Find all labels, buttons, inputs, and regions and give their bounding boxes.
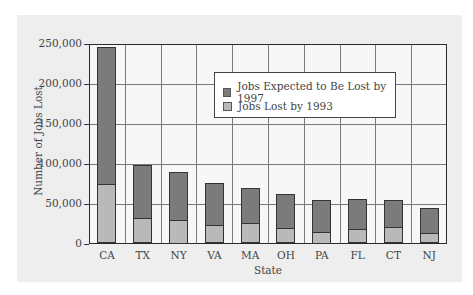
bar-ct: [384, 200, 403, 244]
bar-pa: [312, 200, 331, 244]
bar-segment-expected-1997: [205, 183, 224, 226]
x-tick-label: PA: [304, 249, 340, 261]
bar-ca: [97, 47, 116, 244]
bar-segment-lost-1993: [348, 229, 367, 243]
x-tick-label: NJ: [411, 249, 447, 261]
bar-segment-expected-1997: [312, 200, 331, 233]
vertical-gridline: [125, 45, 126, 243]
bar-nj: [420, 208, 439, 244]
y-tick-label: 200,000: [12, 77, 82, 89]
y-tick-label: 100,000: [12, 157, 82, 169]
bar-segment-lost-1993: [276, 228, 295, 243]
y-tick-label: 0: [12, 237, 82, 249]
legend-label: Jobs Lost by 1993: [238, 100, 333, 112]
bar-segment-lost-1993: [97, 184, 116, 243]
bar-segment-lost-1993: [312, 232, 331, 244]
bar-fl: [348, 199, 367, 244]
bar-segment-lost-1993: [241, 223, 260, 244]
x-tick-label: CA: [89, 249, 125, 261]
bar-ny: [169, 172, 188, 244]
legend-swatch-light: [223, 102, 232, 111]
bar-ma: [241, 188, 260, 244]
x-tick-label: VA: [196, 249, 232, 261]
y-axis-label: Number of Jobs Lost: [32, 81, 44, 201]
bar-segment-expected-1997: [169, 172, 188, 221]
bar-segment-lost-1993: [384, 227, 403, 243]
bar-oh: [276, 194, 295, 244]
bar-segment-expected-1997: [133, 165, 152, 219]
bar-segment-expected-1997: [97, 47, 116, 186]
y-tick-label: 250,000: [12, 37, 82, 49]
bar-segment-lost-1993: [133, 218, 152, 244]
x-axis-label: State: [89, 264, 447, 276]
x-tick-label: FL: [340, 249, 376, 261]
y-tick-label: 150,000: [12, 117, 82, 129]
x-tick-label: CT: [375, 249, 411, 261]
bar-segment-lost-1993: [420, 233, 439, 243]
x-tick-label: OH: [268, 249, 304, 261]
vertical-gridline: [196, 45, 197, 243]
bar-segment-lost-1993: [169, 220, 188, 244]
bar-tx: [133, 165, 152, 243]
vertical-gridline: [411, 45, 412, 243]
chart-legend: Jobs Expected to Be Lost by 1997 Jobs Lo…: [214, 72, 396, 118]
legend-item-lost-1993: Jobs Lost by 1993: [223, 100, 333, 112]
x-tick-label: TX: [125, 249, 161, 261]
bar-segment-lost-1993: [205, 225, 224, 243]
bar-segment-expected-1997: [348, 199, 367, 231]
bar-segment-expected-1997: [241, 188, 260, 224]
bar-va: [205, 183, 224, 244]
x-tick-label: MA: [232, 249, 268, 261]
x-tick-label: NY: [161, 249, 197, 261]
legend-swatch-dark: [223, 88, 231, 97]
y-tick-label: 50,000: [12, 197, 82, 209]
bar-segment-expected-1997: [276, 194, 295, 230]
bar-segment-expected-1997: [420, 208, 439, 234]
vertical-gridline: [161, 45, 162, 243]
bar-segment-expected-1997: [384, 200, 403, 229]
